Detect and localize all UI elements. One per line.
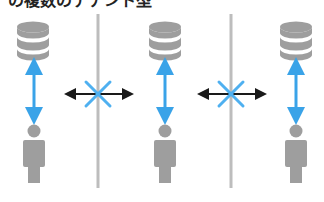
user-icon: [154, 125, 176, 184]
user-icon: [23, 125, 45, 184]
tenant-1: [17, 22, 49, 184]
database-icon: [280, 22, 312, 61]
multi-tenant-diagram: [0, 0, 324, 202]
database-icon: [17, 22, 49, 61]
database-icon: [149, 22, 181, 61]
tenant-3: [280, 22, 312, 184]
tenant-2: [149, 22, 181, 184]
user-icon: [285, 125, 307, 184]
